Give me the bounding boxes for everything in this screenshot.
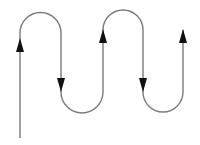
serpentine-path [20, 10, 183, 138]
arrow-up-icon [179, 29, 187, 43]
serpentine-diagram [0, 0, 200, 145]
arrow-up-icon [99, 29, 107, 43]
arrow-up-icon [16, 38, 24, 52]
arrow-down-icon [139, 78, 147, 92]
arrow-down-icon [57, 78, 65, 92]
